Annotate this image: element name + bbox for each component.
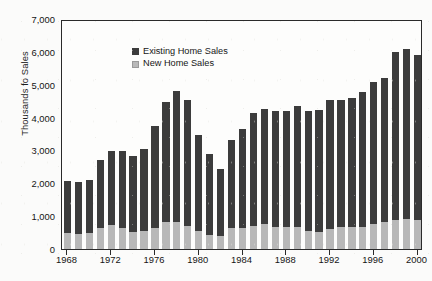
bar-1980 bbox=[195, 135, 202, 249]
bar-segment-new-home-sales bbox=[337, 227, 344, 249]
bar-segment-new-home-sales bbox=[86, 233, 93, 249]
bar-1987 bbox=[272, 111, 279, 249]
x-axis-tick-label: 1996 bbox=[353, 254, 393, 265]
bar-segment-new-home-sales bbox=[75, 234, 82, 249]
bar-1989 bbox=[294, 106, 301, 249]
bar-segment-new-home-sales bbox=[151, 228, 158, 249]
bar-segment-new-home-sales bbox=[294, 227, 301, 249]
bar-segment-new-home-sales bbox=[129, 232, 136, 249]
y-axis-tick-label: 5,000 bbox=[3, 80, 55, 91]
bar-segment-new-home-sales bbox=[392, 220, 399, 249]
bar-1998 bbox=[392, 52, 399, 249]
bar-1969 bbox=[75, 182, 82, 249]
bar-1973 bbox=[119, 151, 126, 249]
bar-1996 bbox=[370, 82, 377, 249]
x-axis-tick-label: 2000 bbox=[397, 254, 432, 265]
bar-1972 bbox=[108, 151, 115, 249]
bar-segment-new-home-sales bbox=[381, 222, 388, 249]
bar-segment-existing-home-sales bbox=[381, 78, 388, 222]
y-axis-tick-label: 3,000 bbox=[3, 145, 55, 156]
x-axis-tick-label: 1976 bbox=[134, 254, 174, 265]
bar-segment-existing-home-sales bbox=[283, 111, 290, 226]
legend-swatch-existing-home-sales bbox=[132, 48, 139, 55]
bar-segment-new-home-sales bbox=[403, 219, 410, 249]
bar-segment-new-home-sales bbox=[315, 232, 322, 249]
bar-1991 bbox=[315, 110, 322, 249]
bar-segment-existing-home-sales bbox=[217, 169, 224, 235]
bar-segment-new-home-sales bbox=[305, 231, 312, 249]
legend-label-existing-home-sales: Existing Home Sales bbox=[143, 46, 228, 57]
bar-segment-existing-home-sales bbox=[392, 52, 399, 219]
bar-segment-existing-home-sales bbox=[184, 100, 191, 226]
bar-segment-new-home-sales bbox=[173, 222, 180, 249]
bar-segment-new-home-sales bbox=[348, 227, 355, 249]
bar-segment-existing-home-sales bbox=[261, 109, 268, 224]
bar-segment-existing-home-sales bbox=[315, 110, 322, 232]
bar-segment-existing-home-sales bbox=[86, 180, 93, 233]
x-axis-tick-label: 1968 bbox=[46, 254, 86, 265]
bar-1999 bbox=[403, 49, 410, 249]
bar-1968 bbox=[64, 181, 71, 249]
bar-segment-existing-home-sales bbox=[64, 181, 71, 233]
bar-1976 bbox=[151, 126, 158, 249]
bar-segment-existing-home-sales bbox=[97, 160, 104, 227]
x-axis-tick-label: 1988 bbox=[265, 254, 305, 265]
bar-segment-new-home-sales bbox=[283, 227, 290, 249]
bar-segment-new-home-sales bbox=[414, 220, 421, 249]
bar-1982 bbox=[217, 169, 224, 249]
y-axis-tick-label: 4,000 bbox=[3, 113, 55, 124]
bar-2000 bbox=[414, 55, 421, 249]
x-axis-tick-label: 1992 bbox=[309, 254, 349, 265]
bar-1997 bbox=[381, 78, 388, 249]
bar-segment-existing-home-sales bbox=[326, 100, 333, 228]
chart-legend: Existing Home Sales New Home Sales bbox=[132, 46, 228, 71]
bar-segment-existing-home-sales bbox=[305, 111, 312, 232]
bar-segment-new-home-sales bbox=[162, 222, 169, 249]
bar-segment-new-home-sales bbox=[326, 229, 333, 249]
bar-segment-new-home-sales bbox=[206, 235, 213, 249]
bar-1981 bbox=[206, 154, 213, 249]
legend-swatch-new-home-sales bbox=[132, 61, 139, 68]
bar-segment-new-home-sales bbox=[97, 228, 104, 249]
bar-1986 bbox=[261, 109, 268, 249]
y-axis-tick-label: 2,000 bbox=[3, 178, 55, 189]
bar-1978 bbox=[173, 91, 180, 249]
bar-segment-existing-home-sales bbox=[206, 154, 213, 235]
bar-segment-existing-home-sales bbox=[228, 140, 235, 229]
bar-segment-new-home-sales bbox=[359, 227, 366, 249]
bar-1977 bbox=[162, 102, 169, 249]
bar-segment-existing-home-sales bbox=[250, 113, 257, 226]
bar-segment-existing-home-sales bbox=[119, 151, 126, 228]
bar-segment-existing-home-sales bbox=[337, 100, 344, 226]
chart-figure: Thousands fo Sales 01,0002,0003,0004,000… bbox=[0, 0, 432, 281]
bar-segment-existing-home-sales bbox=[162, 102, 169, 222]
y-axis-tick-label: 1,000 bbox=[3, 211, 55, 222]
bar-segment-existing-home-sales bbox=[370, 82, 377, 224]
plot-area: Existing Home Sales New Home Sales bbox=[61, 20, 422, 250]
bar-segment-new-home-sales bbox=[108, 225, 115, 249]
bar-1979 bbox=[184, 100, 191, 249]
bar-segment-new-home-sales bbox=[195, 231, 202, 249]
bar-segment-new-home-sales bbox=[140, 231, 147, 249]
y-axis-tick-label: 7,000 bbox=[3, 14, 55, 25]
bar-1995 bbox=[359, 92, 366, 249]
bar-1970 bbox=[86, 180, 93, 249]
bar-segment-existing-home-sales bbox=[108, 151, 115, 226]
legend-item-existing-home-sales: Existing Home Sales bbox=[132, 46, 228, 57]
x-axis-tick-label: 1972 bbox=[90, 254, 130, 265]
y-axis-title: Thousands fo Sales bbox=[19, 24, 30, 164]
bar-segment-new-home-sales bbox=[272, 227, 279, 249]
bar-segment-new-home-sales bbox=[250, 226, 257, 249]
bar-segment-existing-home-sales bbox=[195, 135, 202, 231]
bar-segment-new-home-sales bbox=[184, 226, 191, 249]
bar-segment-existing-home-sales bbox=[239, 129, 246, 228]
x-axis-tick-label: 1980 bbox=[178, 254, 218, 265]
legend-label-new-home-sales: New Home Sales bbox=[143, 58, 214, 69]
bar-1993 bbox=[337, 100, 344, 249]
bar-segment-new-home-sales bbox=[261, 224, 268, 249]
bar-segment-new-home-sales bbox=[239, 228, 246, 249]
bar-segment-existing-home-sales bbox=[140, 149, 147, 230]
bar-segment-existing-home-sales bbox=[173, 91, 180, 222]
bar-segment-existing-home-sales bbox=[348, 98, 355, 226]
bar-segment-new-home-sales bbox=[370, 224, 377, 249]
